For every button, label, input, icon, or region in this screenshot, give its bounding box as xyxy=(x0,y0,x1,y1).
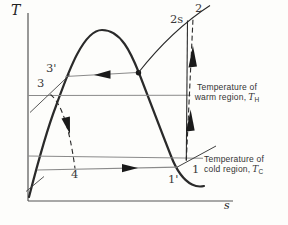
state-point-label-3-prime: 3' xyxy=(46,63,56,75)
arrow-down-icon xyxy=(62,116,71,134)
ts-diagram-figure: T s 2 2s 3' 3 4 1 1' Temperature of warm… xyxy=(0,0,288,225)
y-axis-label: T xyxy=(11,3,20,17)
cold-temperature-subscript: C xyxy=(259,168,264,175)
state-point-label-2s: 2s xyxy=(170,14,183,26)
cold-region-annotation: Temperature of cold region,TC xyxy=(204,154,288,174)
state-point-label-2: 2 xyxy=(195,3,202,15)
liquid-region-tick-line xyxy=(26,177,44,192)
warm-region-annotation: Temperature of warm region,TH xyxy=(186,82,268,102)
state-point-label-1: 1 xyxy=(192,164,199,176)
warm-temperature-subscript: H xyxy=(254,96,259,103)
state-point-label-1-prime: 1' xyxy=(168,174,178,186)
warm-region-annotation-line2: warm region,TH xyxy=(186,92,268,102)
arrow-up-icon xyxy=(189,46,198,68)
expansion-valve-line xyxy=(51,95,76,169)
arrow-right-icon xyxy=(122,164,138,172)
liquid-isobar-line xyxy=(30,75,70,113)
evaporation-process-line xyxy=(37,167,177,170)
cold-region-annotation-line2: cold region,TC xyxy=(204,164,288,174)
cold-region-temperature-line xyxy=(28,156,203,158)
warm-region-annotation-line1: Temperature of xyxy=(186,82,268,92)
ts-diagram-canvas xyxy=(0,0,288,225)
state-point-label-4: 4 xyxy=(71,169,78,181)
cold-region-annotation-line1: Temperature of xyxy=(204,154,288,164)
arrow-up-icon xyxy=(186,110,195,132)
x-axis-label: s xyxy=(224,200,230,211)
state-point-label-3: 3 xyxy=(37,78,44,90)
arrow-left-icon xyxy=(94,70,111,78)
